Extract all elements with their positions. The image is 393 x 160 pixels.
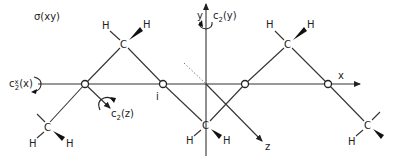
bond-center-node <box>325 81 332 88</box>
z-axis-label: z <box>265 141 270 152</box>
y-axis: y <box>197 4 206 156</box>
c2-x-label: cx2(x) <box>9 78 33 92</box>
c2-z-label: c2(z) <box>111 108 134 122</box>
carbon-atom: C <box>284 39 291 50</box>
hydrogen-atom: H <box>186 135 194 146</box>
c2-x-rotation: cx2(x) <box>9 77 41 94</box>
c2-y-rotation: c2(y) <box>198 10 237 29</box>
carbon-atom: C <box>364 120 371 131</box>
ch2-upper-left: C H H <box>102 19 151 50</box>
ch3-lower-left: C H H <box>29 114 74 149</box>
hydrogen-atom: H <box>307 19 315 30</box>
c2-z-rotation: c2(z) <box>85 84 134 122</box>
molecular-symmetry-diagram: σ(xy) x y z c2(y) cx2(x) <box>0 0 393 160</box>
hydrogen-atom: H <box>223 135 231 146</box>
hydrogen-atom: H <box>266 19 274 30</box>
ch3-lower-right: C H <box>348 112 384 147</box>
mirror-plane-label: σ(xy) <box>34 11 60 22</box>
ch2-upper-right: C H H <box>266 19 315 50</box>
hydrogen-atom: H <box>143 19 151 30</box>
hydrogen-atom: H <box>29 138 37 149</box>
bond-center-node <box>242 81 249 88</box>
carbon-atom: C <box>120 39 127 50</box>
ch2-lower-center: C H H <box>186 120 231 146</box>
hydrogen-atom: H <box>348 136 356 147</box>
c2-y-label: c2(y) <box>213 10 237 24</box>
carbon-atom: C <box>44 122 51 133</box>
bond-center-node <box>160 81 167 88</box>
hydrogen-atom: H <box>66 138 74 149</box>
inversion-center-label: i <box>156 91 159 102</box>
x-axis-label: x <box>338 70 344 81</box>
carbon-atom: C <box>202 120 209 131</box>
y-axis-label: y <box>197 10 203 21</box>
bond-center-node <box>82 81 89 88</box>
hydrogen-atom: H <box>102 20 110 31</box>
